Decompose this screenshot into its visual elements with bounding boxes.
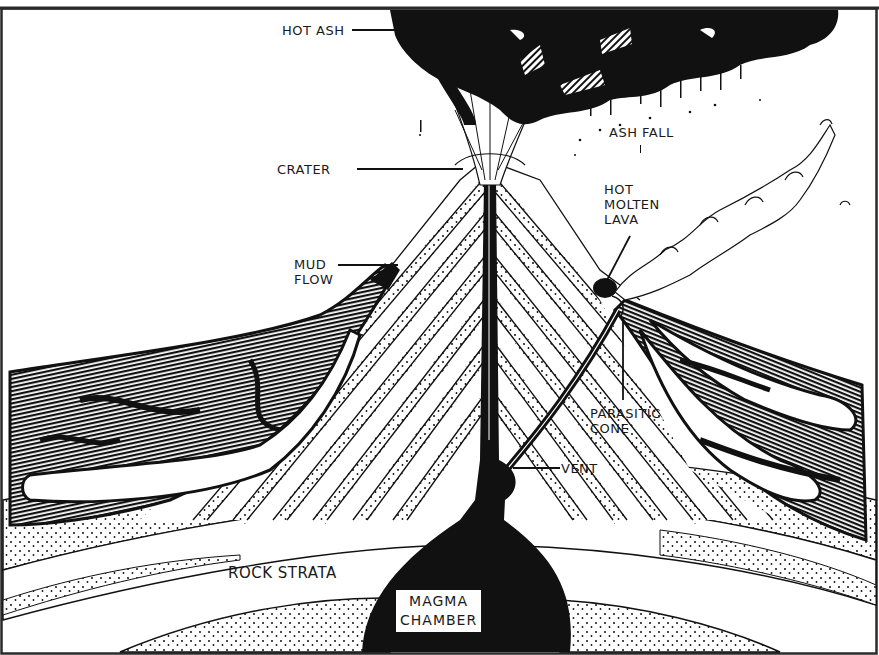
hot-molten-lava-blob (593, 278, 617, 298)
label-mud-flow: MUD FLOW (294, 257, 333, 287)
label-magma-chamber: MAGMA CHAMBER (396, 590, 481, 632)
label-vent: VENT (561, 461, 598, 476)
label-parasitic-cone: PARASITIC CONE (590, 406, 661, 436)
label-rock-strata: ROCK STRATA (228, 565, 337, 582)
label-crater: CRATER (277, 162, 331, 177)
label-hot-molten-lava: HOT MOLTEN LAVA (604, 182, 660, 227)
label-ash-fall: ASH FALL (609, 125, 674, 140)
volcano-illustration (0, 0, 879, 655)
label-hot-ash: HOT ASH (282, 23, 345, 38)
